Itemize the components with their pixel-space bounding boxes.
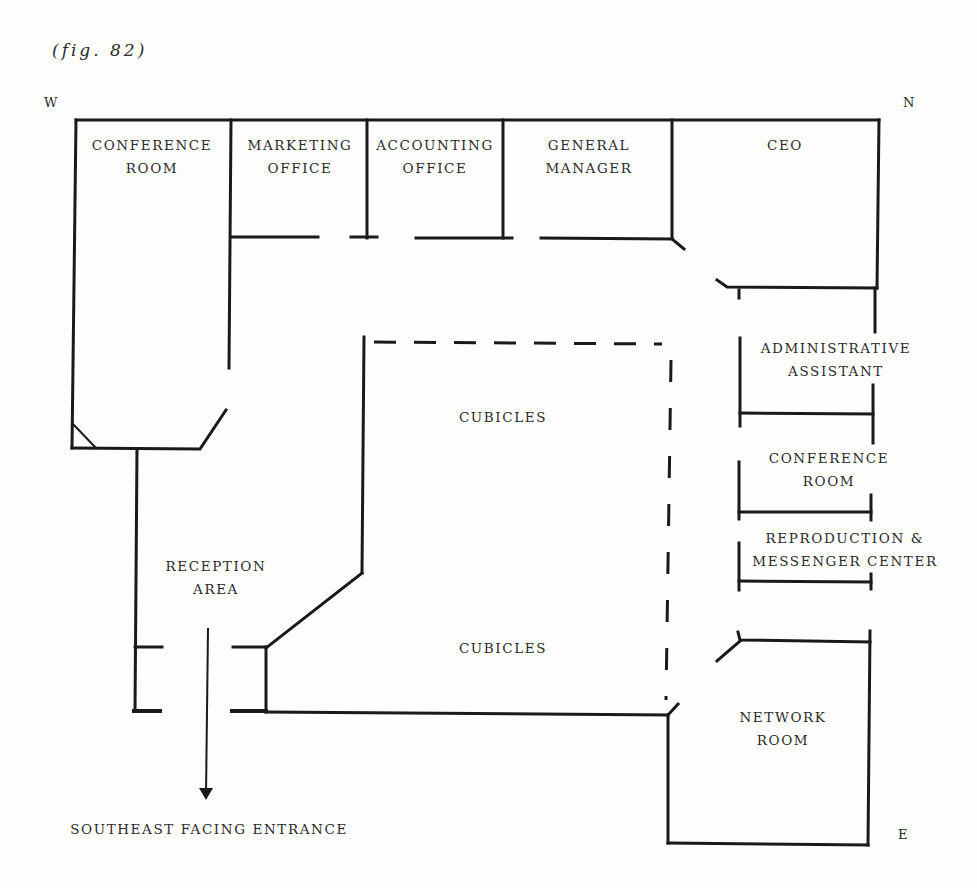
south-wall <box>266 712 668 715</box>
entrance-arrow-head-icon <box>199 788 213 800</box>
room-accounting-office: ACCOUNTING OFFICE <box>376 134 494 180</box>
reception-diagonal-wall <box>266 573 362 648</box>
conference-room-east-wall <box>229 120 231 368</box>
room-label: CONFERENCE <box>92 134 212 157</box>
room-label: REPRODUCTION & <box>752 527 937 550</box>
ceo-bottom-wall <box>717 280 877 288</box>
room-ceo: CEO <box>767 134 803 157</box>
compass-west: W <box>44 95 57 110</box>
entrance-label-text: SOUTHEAST FACING ENTRANCE <box>70 818 348 841</box>
room-label: ADMINISTRATIVE <box>761 337 912 360</box>
network-room-south-wall <box>668 843 868 845</box>
cubicles-east-partition <box>666 360 671 700</box>
room-label: CUBICLES <box>459 637 547 660</box>
ceo-door-swing <box>672 239 684 249</box>
room-reception-area: RECEPTION AREA <box>166 555 267 601</box>
network-room-top-wall <box>738 632 870 642</box>
room-label: ROOM <box>92 157 212 180</box>
room-reproduction-messenger: REPRODUCTION & MESSENGER CENTER <box>752 527 937 573</box>
room-conference-west: CONFERENCE ROOM <box>92 134 212 180</box>
room-label: CONFERENCE <box>769 447 889 470</box>
network-door-swing <box>717 641 740 661</box>
room-label: ROOM <box>769 470 889 493</box>
entrance-arrow-shaft <box>206 628 208 795</box>
room-label: CEO <box>767 134 803 157</box>
room-network-room: NETWORK ROOM <box>739 706 826 752</box>
admin-bottom-wall <box>740 413 873 414</box>
west-wall <box>72 120 76 448</box>
room-cubicles-lower: CUBICLES <box>459 637 547 660</box>
room-label: ROOM <box>739 729 826 752</box>
conference-room-corner-brace <box>72 423 96 448</box>
entrance-label: SOUTHEAST FACING ENTRANCE <box>70 818 348 841</box>
network-room-east-wall <box>868 631 870 845</box>
room-label: MARKETING <box>247 134 352 157</box>
room-administrative-assistant: ADMINISTRATIVE ASSISTANT <box>761 337 912 383</box>
room-label: GENERAL <box>545 134 632 157</box>
room-label: MESSENGER CENTER <box>752 550 937 573</box>
room-label: ACCOUNTING <box>376 134 494 157</box>
room-cubicles-upper: CUBICLES <box>459 406 547 429</box>
room-label: MANAGER <box>545 157 632 180</box>
room-general-manager: GENERAL MANAGER <box>545 134 632 180</box>
reproduction-bottom-wall <box>739 581 871 582</box>
room-label: NETWORK <box>739 706 826 729</box>
south-door-swing <box>668 704 678 715</box>
room-label: ASSISTANT <box>761 360 912 383</box>
room-label: OFFICE <box>247 157 352 180</box>
gm-front-wall <box>541 238 672 239</box>
reception-west-wall <box>135 449 137 711</box>
cubicles-west-wall <box>362 337 364 573</box>
conference-room-bottom-wall <box>72 410 226 449</box>
room-label: OFFICE <box>376 157 494 180</box>
north-east-wall <box>877 120 879 288</box>
cubicles-north-partition <box>374 342 662 344</box>
room-marketing-office: MARKETING OFFICE <box>247 134 352 180</box>
room-conference-east: CONFERENCE ROOM <box>769 447 889 493</box>
compass-east: E <box>898 827 908 842</box>
compass-north: N <box>903 95 914 110</box>
room-label: AREA <box>166 578 267 601</box>
room-label: CUBICLES <box>459 406 547 429</box>
room-label: RECEPTION <box>166 555 267 578</box>
figure-caption: (fig. 82) <box>52 40 147 60</box>
